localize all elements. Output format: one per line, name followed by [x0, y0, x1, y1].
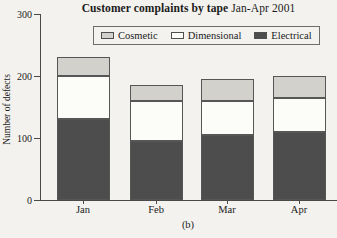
legend-item-electrical: Electrical: [254, 30, 311, 41]
bar-segment-electrical-feb: [130, 141, 183, 200]
legend: CosmeticDimensionalElectrical: [93, 26, 320, 45]
legend-item-cosmetic: Cosmetic: [101, 30, 158, 41]
chart-title-dates: Jan-Apr 2001: [228, 2, 295, 14]
category-label-mar: Mar: [205, 204, 249, 215]
legend-label-electrical: Electrical: [271, 30, 311, 41]
bar-segment-dimensional-jan: [57, 76, 110, 119]
y-tick-label-100: 100: [6, 133, 32, 144]
y-tick-label-0: 0: [6, 195, 32, 206]
figure-caption: (b): [166, 219, 210, 230]
legend-label-dimensional: Dimensional: [188, 30, 242, 41]
legend-swatch-electrical: [254, 32, 267, 39]
legend-item-dimensional: Dimensional: [171, 30, 242, 41]
y-tick-300: [34, 14, 40, 15]
bar-segment-cosmetic-apr: [273, 76, 326, 98]
y-tick-label-200: 200: [6, 71, 32, 82]
bar-segment-dimensional-apr: [273, 98, 326, 132]
legend-label-cosmetic: Cosmetic: [118, 30, 158, 41]
category-label-feb: Feb: [134, 204, 178, 215]
bar-segment-electrical-mar: [201, 135, 254, 200]
chart-title: Customer complaints by tape Jan-Apr 2001: [40, 2, 337, 14]
bar-segment-dimensional-mar: [201, 101, 254, 135]
legend-swatch-dimensional: [171, 32, 184, 39]
y-tick-0: [34, 200, 40, 201]
bar-segment-electrical-apr: [273, 132, 326, 200]
bar-segment-cosmetic-feb: [130, 85, 183, 101]
bar-segment-electrical-jan: [57, 119, 110, 200]
bar-segment-dimensional-feb: [130, 101, 183, 141]
legend-swatch-cosmetic: [101, 32, 114, 39]
bar-segment-cosmetic-mar: [201, 79, 254, 101]
y-axis-line: [40, 14, 41, 201]
y-tick-label-300: 300: [6, 9, 32, 20]
stacked-bar-chart: Customer complaints by tape Jan-Apr 2001…: [0, 0, 337, 238]
category-label-jan: Jan: [61, 204, 105, 215]
category-label-apr: Apr: [277, 204, 321, 215]
y-tick-200: [34, 76, 40, 77]
bar-segment-cosmetic-jan: [57, 57, 110, 76]
y-tick-100: [34, 138, 40, 139]
chart-title-main: Customer complaints by tape: [82, 2, 229, 14]
